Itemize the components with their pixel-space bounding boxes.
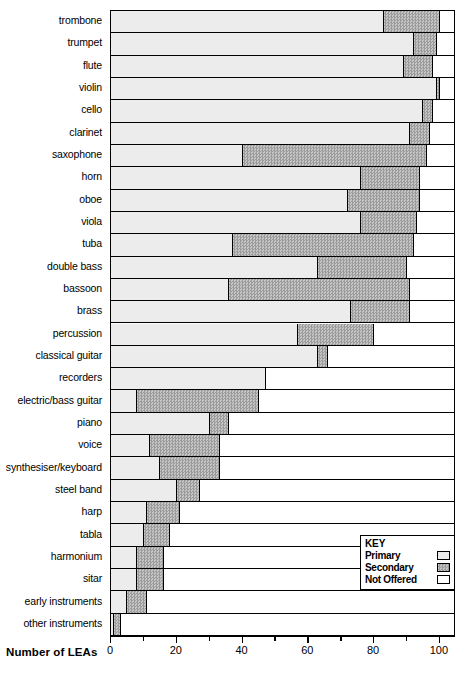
bar-segment	[144, 524, 170, 545]
legend-item-secondary: Secondary	[365, 561, 450, 573]
category-label: viola	[0, 216, 102, 227]
bar-chart: trombonetrumpetfluteviolincelloclarinets…	[0, 0, 474, 677]
bar-row	[111, 212, 454, 234]
category-label: clarinet	[0, 127, 102, 138]
bar-row	[111, 257, 454, 279]
category-label: percussion	[0, 328, 102, 339]
bar-segment	[111, 257, 318, 278]
bar-segment	[243, 145, 427, 166]
bar-segment	[111, 547, 137, 568]
category-label: piano	[0, 417, 102, 428]
bar-segment	[111, 390, 137, 411]
bar-segment	[137, 390, 259, 411]
x-axis-tick	[307, 636, 308, 643]
category-axis-labels: trombonetrumpetfluteviolincelloclarinets…	[0, 10, 104, 635]
bar-segment	[427, 145, 453, 166]
bar-segment	[111, 212, 361, 233]
bar-segment	[111, 33, 414, 54]
bar-segment	[318, 257, 407, 278]
bar-segment	[160, 457, 219, 478]
bar-segment	[407, 257, 453, 278]
category-label: other instruments	[0, 618, 102, 629]
bar-segment	[420, 167, 453, 188]
category-label: tuba	[0, 238, 102, 249]
category-label: saxophone	[0, 149, 102, 160]
bar-segment	[433, 56, 453, 77]
bar-segment	[150, 435, 219, 456]
category-label: electric/bass guitar	[0, 395, 102, 406]
bar-segment	[114, 614, 121, 636]
bar-row	[111, 368, 454, 390]
category-label: voice	[0, 439, 102, 450]
bar-segment	[111, 100, 423, 121]
bar-row	[111, 346, 454, 368]
bar-segment	[111, 324, 298, 345]
bar-segment	[328, 346, 453, 367]
bar-segment	[137, 569, 163, 590]
bar-row	[111, 324, 454, 346]
bar-row	[111, 234, 454, 256]
bar-row	[111, 56, 454, 78]
bar-segment	[440, 11, 453, 32]
bar-segment	[137, 547, 163, 568]
bar-segment	[111, 480, 177, 501]
x-axis-tick	[373, 636, 374, 643]
bar-row	[111, 435, 454, 457]
category-label: tabla	[0, 529, 102, 540]
bar-segment	[111, 457, 160, 478]
bar-segment	[423, 100, 433, 121]
bar-row	[111, 480, 454, 502]
bar-row	[111, 11, 454, 33]
bar-segment	[111, 346, 318, 367]
bar-segment	[414, 33, 437, 54]
x-axis-tick	[209, 636, 210, 641]
bar-segment	[410, 301, 453, 322]
bar-segment	[200, 480, 453, 501]
bar-segment	[210, 413, 230, 434]
bar-segment	[414, 234, 453, 255]
x-axis: 020406080100	[110, 635, 455, 636]
bar-segment	[361, 212, 417, 233]
category-label: violin	[0, 82, 102, 93]
bar-segment	[220, 435, 453, 456]
x-axis-tick-label: 0	[107, 644, 113, 656]
bar-segment	[437, 33, 453, 54]
bar-segment	[111, 167, 361, 188]
legend-swatch-primary-icon	[437, 551, 450, 560]
category-label: harmonium	[0, 551, 102, 562]
bar-segment	[111, 56, 404, 77]
bar-row	[111, 413, 454, 435]
bar-segment	[266, 368, 453, 389]
bar-segment	[111, 569, 137, 590]
legend-label-secondary: Secondary	[365, 562, 413, 573]
bar-segment	[430, 123, 453, 144]
bar-segment	[111, 368, 266, 389]
bar-row	[111, 167, 454, 189]
bar-segment	[318, 346, 328, 367]
legend-item-primary: Primary	[365, 549, 450, 561]
bar-segment	[111, 524, 144, 545]
bar-segment	[111, 190, 348, 211]
bar-row	[111, 190, 454, 212]
bar-segment	[374, 324, 453, 345]
bar-segment	[121, 614, 453, 636]
bar-segment	[361, 167, 420, 188]
bar-segment	[111, 502, 147, 523]
category-label: recorders	[0, 372, 102, 383]
legend-label-not-offered: Not Offered	[365, 574, 417, 585]
x-axis-tick-label: 100	[430, 644, 448, 656]
bar-segment	[111, 591, 127, 612]
bar-segment	[111, 413, 210, 434]
bar-row	[111, 78, 454, 100]
legend-title: KEY	[365, 538, 450, 549]
legend-label-primary: Primary	[365, 550, 400, 561]
category-label: flute	[0, 60, 102, 71]
category-label: trumpet	[0, 37, 102, 48]
legend-swatch-not-offered-icon	[437, 575, 450, 584]
bar-row	[111, 279, 454, 301]
x-axis-tick	[406, 636, 407, 641]
bar-segment	[111, 145, 243, 166]
bar-segment	[111, 234, 233, 255]
bar-segment	[351, 301, 410, 322]
bar-row	[111, 33, 454, 55]
